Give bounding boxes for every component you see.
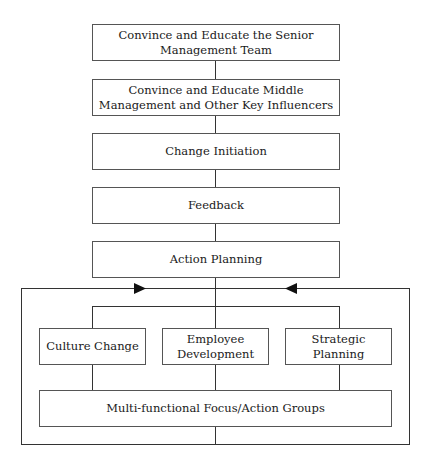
step-label: Convince and Educate Middle Management a… xyxy=(97,83,335,113)
step-label: Convince and Educate the Senior Manageme… xyxy=(97,28,335,58)
step-senior-management: Convince and Educate the Senior Manageme… xyxy=(92,24,340,61)
step-feedback: Feedback xyxy=(92,187,340,224)
step-label: Feedback xyxy=(188,198,244,213)
multi-functional-groups: Multi-functional Focus/Action Groups xyxy=(39,390,392,427)
step-middle-management: Convince and Educate Middle Management a… xyxy=(92,79,340,116)
branch-label: Employee Development xyxy=(167,332,264,362)
step-action-planning: Action Planning xyxy=(92,241,340,278)
branch-culture-change: Culture Change xyxy=(39,328,146,365)
branch-employee-development: Employee Development xyxy=(162,328,269,365)
arrow-left-icon xyxy=(285,283,297,294)
branch-strategic-planning: Strategic Planning xyxy=(285,328,392,365)
step-label: Action Planning xyxy=(170,252,263,267)
branch-label: Strategic Planning xyxy=(290,332,387,362)
branch-label: Culture Change xyxy=(46,339,139,354)
arrow-right-icon xyxy=(134,283,146,294)
step-label: Change Initiation xyxy=(165,144,267,159)
bottom-label: Multi-functional Focus/Action Groups xyxy=(106,401,325,416)
step-change-initiation: Change Initiation xyxy=(92,133,340,170)
